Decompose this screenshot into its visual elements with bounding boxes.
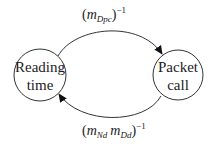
edge-packet-to-reading (59, 94, 161, 118)
node-label-line2: call (167, 77, 189, 93)
state-diagram: Reading time Packet call (mDpc)−1 (mNdmD… (0, 0, 218, 147)
node-label-line1: Reading (15, 59, 65, 75)
edge-label-top: (mDpc)−1 (82, 5, 126, 24)
diagram-canvas: Reading time Packet call (mDpc)−1 (mNdmD… (0, 0, 218, 147)
edge-label-bottom: (mNdmDd)−1 (82, 121, 146, 140)
node-packet-call: Packet call (153, 50, 203, 100)
node-label-line2: time (27, 77, 54, 93)
node-reading-time: Reading time (14, 49, 66, 101)
edge-reading-to-packet (58, 31, 162, 56)
node-label-line1: Packet (158, 59, 199, 75)
